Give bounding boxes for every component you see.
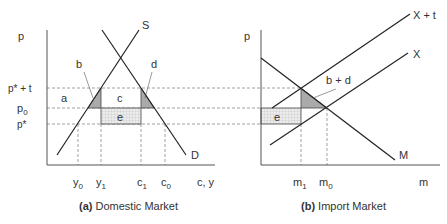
qty-label-m1: m1 [293,176,307,191]
curve-label-m: M [399,149,408,161]
qty-label-y1: y1 [96,176,107,191]
export-supply-tariff-curve [272,14,410,108]
caption-domestic-market: (a) Domestic Market [79,200,178,212]
area-label-bd: b + d [326,74,351,86]
qty-label-y0: y0 [73,176,84,191]
area-label-d: d [151,58,157,70]
supply-label: S [142,19,149,31]
caption-import-market: (b) Import Market [301,200,386,212]
panel-import-market: p X + t X M b + d e m1 m0 m (b) Import M… [244,9,440,212]
tariff-diagram: p S D p* + t p0 p* a b c d e y0 y1 c1 c0… [0,0,447,224]
x-axis-label: c, y [197,176,215,188]
price-label-p0: p0 [17,102,28,117]
qty-label-c0: c0 [161,176,172,191]
price-label-p-star-t: p* + t [8,83,32,94]
x-axis-label-import: m [419,176,428,188]
demand-label: D [191,149,199,161]
y-axis-label-import: p [244,30,250,42]
leader-bd [313,89,336,98]
area-label-b: b [76,58,82,70]
y-axis-label: p [18,30,24,42]
curve-label-x: X [413,48,421,60]
area-label-e-import: e [274,111,280,123]
export-supply-curve [270,53,408,145]
area-label-a: a [61,92,68,104]
demand-curve [102,30,186,155]
price-label-p-star: p* [17,119,27,130]
area-label-c: c [117,92,123,104]
leader-b [84,72,93,98]
area-e-import [261,108,301,124]
panel-domestic-market: p S D p* + t p0 p* a b c d e y0 y1 c1 c0… [8,19,301,212]
qty-label-c1: c1 [137,176,148,191]
leader-d [145,72,152,98]
qty-label-m0: m0 [319,176,333,191]
supply-curve [57,30,139,155]
area-label-e: e [117,111,123,123]
curve-label-x-plus-t: X + t [413,9,436,21]
